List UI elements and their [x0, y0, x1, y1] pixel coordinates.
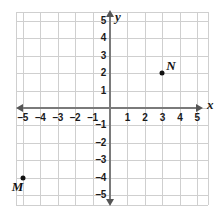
coordinate-plane: x y –5–4–3–2–11234554321–1–2–3–4–5 MN [0, 0, 223, 218]
plot-point-n [160, 71, 165, 76]
plotted-points: MN [0, 0, 223, 218]
point-label-n: N [166, 59, 175, 72]
point-label-m: M [12, 180, 24, 193]
